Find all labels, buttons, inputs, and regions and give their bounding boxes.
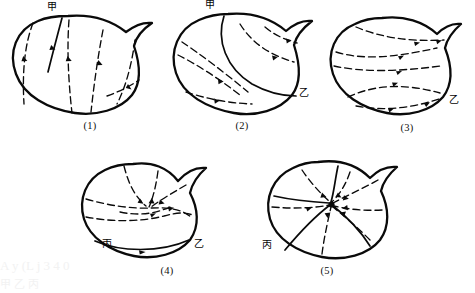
- figure-2-dashed-curve-1: [265, 27, 297, 43]
- figure-5-label-bing: 丙: [262, 240, 272, 250]
- figure-5-arrow-2: [335, 192, 341, 197]
- figure-1-label-jia: 甲: [47, 2, 57, 12]
- figure-2-dashed-curve-4: [182, 42, 248, 92]
- watermark-line-2: 甲 乙 丙: [0, 275, 39, 291]
- figure-4-label-bing: 丙: [102, 239, 112, 249]
- figure-5-focus-node: [328, 201, 334, 207]
- figure-1-group: [13, 16, 152, 114]
- figure-3-arrow-4: [396, 71, 402, 75]
- figure-5-dashed-curve-3: [333, 180, 378, 203]
- figure-2-arrow-1: [286, 38, 292, 43]
- figure-5-dashed-curve-1: [302, 170, 330, 202]
- figure-3-dashed-curve-4: [348, 86, 440, 97]
- figure-4-label-yi: 乙: [194, 239, 204, 249]
- figure-5-solid-curve-4: [332, 205, 370, 246]
- figure-4-arrow-5: [150, 213, 156, 217]
- figure-1-caption: (1): [60, 120, 120, 131]
- figure-5-dashed-curve-5: [334, 206, 382, 210]
- figure-2-solid-curve: [221, 16, 296, 96]
- figure-2-caption: (2): [212, 120, 272, 131]
- figure-3-dashed-curve-2: [336, 48, 437, 57]
- figure-5-dashed-curve-4: [272, 205, 330, 208]
- figure-4-group: [82, 163, 206, 257]
- figure-5-dashed-curve-7: [333, 207, 370, 240]
- figure-3-arrow-3: [398, 56, 404, 60]
- figure-4-dashed-curve-6: [120, 206, 172, 214]
- figure-4-caption: (4): [137, 265, 197, 276]
- figure-3-group: [331, 17, 461, 114]
- figure-3-arrow-2: [436, 40, 442, 44]
- figure-5-arrow-1: [320, 193, 326, 198]
- figure-3-caption: (3): [377, 122, 437, 133]
- figure-2-arrow-3: [218, 79, 224, 85]
- figure-4-arrow-solid: [139, 250, 146, 254]
- figure-5-caption: (5): [297, 265, 357, 276]
- figure-3-arrow-1: [414, 42, 420, 46]
- figure-3-dashed-curve-3: [334, 66, 440, 71]
- figure-3-outline: [331, 17, 461, 114]
- figure-2-arrow-4: [214, 99, 220, 104]
- figure-4-dashed-curve-5: [86, 213, 194, 221]
- figure-5-arrow-4: [306, 207, 312, 211]
- diagram-canvas: [0, 0, 475, 293]
- figure-4-dashed-curve-3: [151, 185, 186, 207]
- figure-2-group: [174, 14, 312, 114]
- figure-4-arrow-2: [149, 198, 155, 204]
- figure-2-label-yi: 乙: [299, 88, 309, 98]
- figure-1-dashed-curve-3: [91, 30, 103, 112]
- figure-sheet: 甲 甲 乙 乙 丙 乙 丙 (1) (2) (3) (4) (5) A y (L…: [0, 0, 475, 293]
- figure-5-group: [268, 161, 397, 258]
- watermark-line-1: A y (L j 3 4 0: [0, 258, 70, 274]
- figure-1-dashed-curve-2: [68, 20, 72, 113]
- figure-3-arrow-6: [388, 108, 394, 112]
- figure-2-label-jia: 甲: [205, 0, 215, 10]
- figure-3-label-yi: 乙: [449, 95, 459, 105]
- figure-4-dashed-curve-1: [124, 166, 146, 206]
- figure-1-solid-curve: [48, 18, 62, 72]
